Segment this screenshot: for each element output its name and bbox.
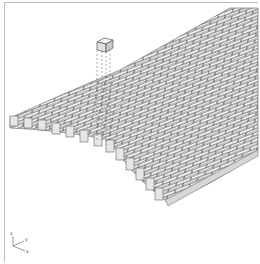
axis-label-y: y (24, 236, 28, 243)
axis-label-z: z (10, 230, 13, 236)
axis-triad-icon (13, 236, 25, 251)
vault-illustration: z y x (0, 0, 260, 264)
axis-label-x: x (26, 248, 29, 254)
